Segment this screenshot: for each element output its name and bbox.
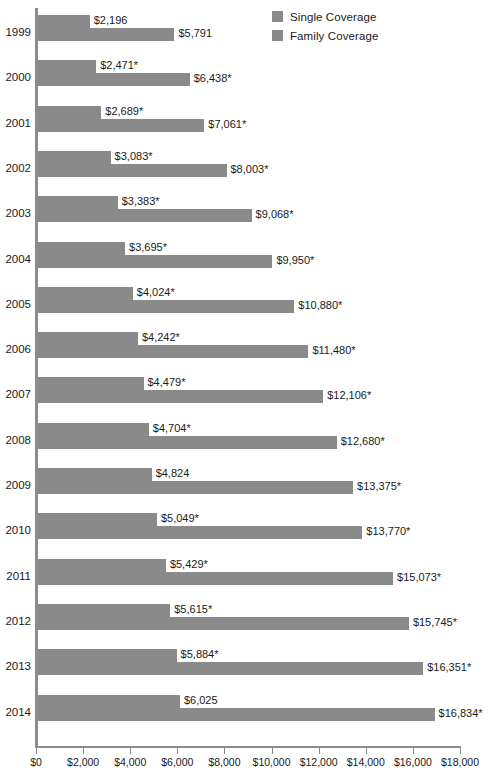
bar-value-label: $2,471* — [96, 59, 138, 71]
year-group: 2011$5,429*$15,073* — [0, 559, 492, 585]
bar — [38, 423, 149, 436]
x-axis-tick-label: $0 — [30, 756, 42, 768]
bar-value-label: $13,770* — [362, 525, 410, 537]
bar-row: $2,471* — [38, 60, 492, 73]
x-axis-tick-label: $4,000 — [114, 756, 146, 768]
bar — [38, 377, 144, 390]
x-axis-tick-label: $16,000 — [394, 756, 432, 768]
bar-row: $4,704* — [38, 423, 492, 436]
bar-row: $9,950* — [38, 255, 492, 268]
bar-row: $8,003* — [38, 164, 492, 177]
bar-value-label: $12,106* — [323, 389, 371, 401]
bar — [38, 481, 353, 494]
bar — [38, 345, 308, 358]
year-axis-label: 2005 — [0, 298, 31, 310]
bar-row: $15,745* — [38, 617, 492, 630]
x-axis-tick-label: $18,000 — [441, 756, 479, 768]
year-group: 2010$5,049*$13,770* — [0, 513, 492, 539]
x-axis-tick — [83, 748, 84, 754]
bar-value-label: $3,695* — [125, 241, 167, 253]
bar-value-label: $16,834* — [435, 707, 483, 719]
bar — [38, 559, 166, 572]
x-axis-tick-label: $2,000 — [67, 756, 99, 768]
x-axis-tick — [413, 748, 414, 754]
year-group: 2002$3,083*$8,003* — [0, 151, 492, 177]
x-axis-tick — [36, 748, 37, 754]
bar-value-label: $6,438* — [190, 72, 232, 84]
x-axis-tick — [460, 748, 461, 754]
bar-row: $6,438* — [38, 73, 492, 86]
bar — [38, 119, 204, 132]
year-group: 2006$4,242*$11,480* — [0, 332, 492, 358]
bar-row: $16,834* — [38, 708, 492, 721]
bar-value-label: $15,073* — [393, 571, 441, 583]
bar-value-label: $5,429* — [166, 558, 208, 570]
bar — [38, 332, 138, 345]
bar-row: $6,025 — [38, 695, 492, 708]
bar-value-label: $2,689* — [101, 105, 143, 117]
bar-row: $2,689* — [38, 106, 492, 119]
year-group: 2009$4,824$13,375* — [0, 468, 492, 494]
bar — [38, 604, 170, 617]
bar-row: $12,106* — [38, 390, 492, 403]
bar-value-label: $12,680* — [337, 435, 385, 447]
year-group: 2000$2,471*$6,438* — [0, 60, 492, 86]
bar-value-label: $8,003* — [227, 163, 269, 175]
bar-row: $13,770* — [38, 526, 492, 539]
year-group: 2013$5,884*$16,351* — [0, 649, 492, 675]
bar-value-label: $10,880* — [294, 299, 342, 311]
bar — [38, 300, 294, 313]
bar-chart: Single CoverageFamily Coverage $0$2,000$… — [0, 0, 492, 775]
bar-value-label: $5,884* — [177, 648, 219, 660]
x-axis-tick-label: $12,000 — [300, 756, 338, 768]
bar-value-label: $5,791 — [174, 27, 212, 39]
bar — [38, 106, 101, 119]
bar-value-label: $13,375* — [353, 480, 401, 492]
bar-value-label: $7,061* — [204, 118, 246, 130]
x-axis-tick — [177, 748, 178, 754]
year-group: 2001$2,689*$7,061* — [0, 106, 492, 132]
x-axis-tick — [366, 748, 367, 754]
bar-row: $2,196 — [38, 15, 492, 28]
year-axis-label: 2003 — [0, 207, 31, 219]
bar-row: $4,479* — [38, 377, 492, 390]
bar-value-label: $5,615* — [170, 603, 212, 615]
bar-value-label: $11,480* — [308, 344, 355, 356]
year-axis-label: 2008 — [0, 434, 31, 446]
bar-value-label: $15,745* — [409, 616, 457, 628]
x-axis-tick — [130, 748, 131, 754]
bar-value-label: $6,025 — [180, 694, 218, 706]
x-axis-line — [35, 746, 461, 748]
year-axis-label: 2010 — [0, 524, 31, 536]
bar-row: $16,351* — [38, 662, 492, 675]
year-axis-label: 2009 — [0, 479, 31, 491]
bar — [38, 242, 125, 255]
bar — [38, 28, 174, 41]
x-axis-tick-label: $6,000 — [161, 756, 193, 768]
bar-value-label: $16,351* — [423, 661, 471, 673]
bar — [38, 708, 435, 721]
bar-value-label: $4,479* — [144, 376, 186, 388]
bar-row: $11,480* — [38, 345, 492, 358]
x-axis-tick — [224, 748, 225, 754]
bar-value-label: $4,242* — [138, 331, 180, 343]
bar-row: $7,061* — [38, 119, 492, 132]
bar-value-label: $9,068* — [252, 208, 294, 220]
bar — [38, 695, 180, 708]
bar — [38, 73, 190, 86]
bar — [38, 287, 133, 300]
year-axis-label: 2004 — [0, 253, 31, 265]
bar-row: $3,695* — [38, 242, 492, 255]
bar — [38, 209, 252, 222]
bar-value-label: $9,950* — [272, 254, 314, 266]
year-group: 2008$4,704*$12,680* — [0, 423, 492, 449]
x-axis-tick — [272, 748, 273, 754]
bar-row: $4,024* — [38, 287, 492, 300]
bar-row: $5,049* — [38, 513, 492, 526]
bar — [38, 649, 177, 662]
bar — [38, 151, 111, 164]
bar-row: $9,068* — [38, 209, 492, 222]
year-axis-label: 2011 — [0, 570, 31, 582]
x-axis-tick-label: $10,000 — [253, 756, 291, 768]
bar-value-label: $2,196 — [90, 14, 128, 26]
